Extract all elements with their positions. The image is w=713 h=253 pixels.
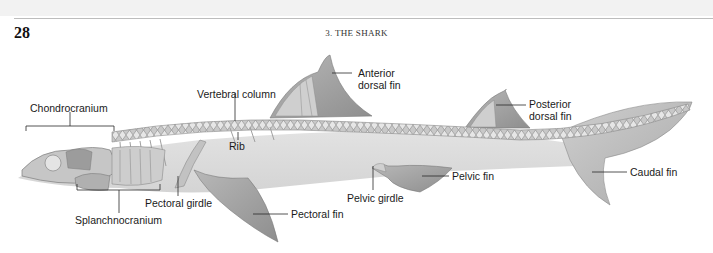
pelvic-fin [372, 164, 452, 193]
label-anterior-dorsal-fin-line2: dorsal fin [358, 79, 401, 91]
label-pelvic-girdle: Pelvic girdle [347, 192, 404, 204]
label-chondrocranium: Chondrocranium [30, 102, 108, 114]
splanchnocranium [112, 146, 165, 185]
posterior-dorsal-fin [465, 90, 530, 129]
anterior-dorsal-fin [270, 55, 372, 118]
label-rib: Rib [229, 140, 245, 152]
label-posterior-dorsal-fin-line1: Posterior [529, 98, 572, 110]
label-posterior-dorsal-fin-line2: dorsal fin [529, 110, 572, 122]
label-caudal-fin: Caudal fin [630, 166, 677, 178]
label-splanchnocranium: Splanchnocranium [75, 214, 162, 226]
label-pelvic-fin: Pelvic fin [452, 170, 494, 182]
label-posterior-dorsal-fin: Posterior dorsal fin [529, 98, 572, 122]
caudal-fin [560, 102, 692, 205]
label-anterior-dorsal-fin: Anterior dorsal fin [358, 67, 401, 91]
label-anterior-dorsal-fin-line1: Anterior [358, 67, 401, 79]
label-vertebral-column: Vertebral column [197, 88, 276, 100]
label-pectoral-fin: Pectoral fin [291, 208, 344, 220]
label-pectoral-girdle: Pectoral girdle [145, 197, 212, 209]
